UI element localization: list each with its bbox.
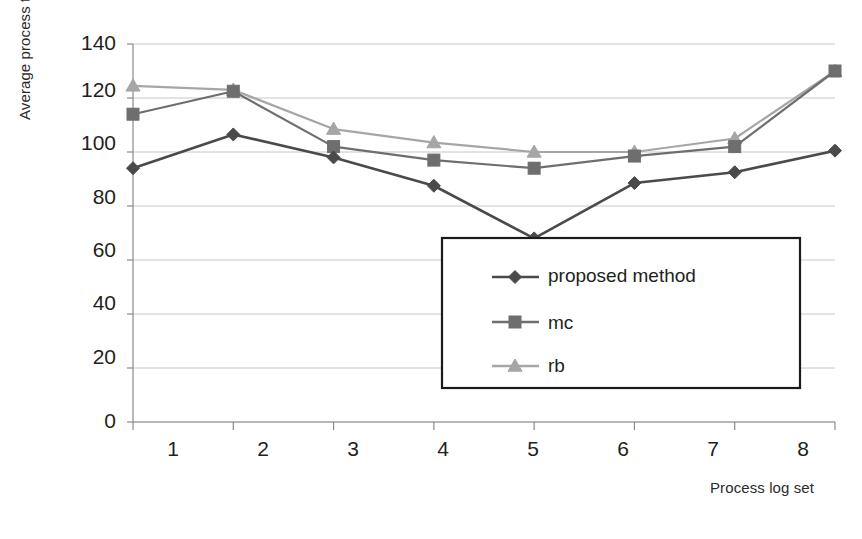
data-series-layer — [126, 64, 842, 245]
legend-label-mc: mc — [548, 312, 573, 334]
plot-area — [0, 0, 862, 539]
legend-label-rb: rb — [548, 355, 565, 377]
chart-figure: Average process time Process log set 140… — [0, 0, 862, 539]
x-axis-ticks — [133, 422, 835, 430]
legend-label-proposed-method: proposed method — [548, 265, 696, 287]
legend-box — [442, 238, 800, 388]
